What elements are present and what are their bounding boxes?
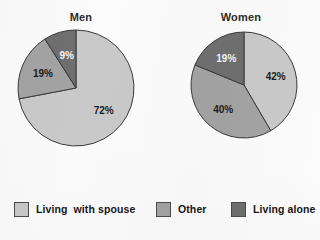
legend-item-living-with-spouse: Living with spouse (14, 200, 135, 218)
chart-men: Men 72%19%9% (6, 6, 156, 181)
chart-women: Women 42%40%19% (166, 6, 316, 181)
legend-label-living-alone: Living alone (253, 203, 315, 215)
legend-label-other: Other (178, 203, 207, 215)
pie-slice-label: 9% (59, 50, 74, 61)
pie-chart-figure: Men 72%19%9% Women 42%40%19% Living with… (0, 0, 320, 240)
chart-title-men: Men (6, 11, 156, 23)
legend-swatch-icon-other (156, 202, 171, 217)
legend: Living with spouse Other Living alone (0, 196, 320, 226)
pie-slice-label: 42% (266, 71, 286, 82)
legend-swatch-icon-living-alone (231, 202, 246, 217)
legend-label-living-with-spouse: Living with spouse (36, 203, 135, 215)
pie-slice-label: 19% (33, 68, 53, 79)
pie-men: 72%19%9% (16, 28, 136, 148)
pie-slice-label: 72% (94, 105, 114, 116)
chart-title-women: Women (166, 11, 316, 23)
pie-slice-label: 19% (216, 53, 236, 64)
legend-item-living-alone: Living alone (231, 200, 315, 218)
pie-men-svg: 72%19%9% (16, 28, 136, 148)
legend-swatch-icon-living-with-spouse (14, 202, 29, 217)
pie-slice-label: 40% (213, 104, 233, 115)
pie-women: 42%40%19% (189, 30, 299, 140)
legend-item-other: Other (156, 200, 207, 218)
pie-women-svg: 42%40%19% (189, 30, 299, 140)
